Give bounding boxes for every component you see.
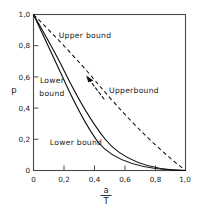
x-axis-tick-labels: 0 0,2 0,4 0,6 0,8 1,0 (31, 175, 191, 184)
plot-canvas: 0 0,2 0,4 0,6 0,8 1,0 0 0,2 0,4 0,6 0,8 … (0, 0, 197, 206)
x-tick-label-4: 0,8 (150, 175, 162, 184)
x-axis-label-denominator: T (102, 196, 109, 206)
x-axis-label: a T (101, 185, 112, 206)
y-tick-label-3: 0,6 (19, 73, 31, 82)
y-tick-label-2: 0,4 (19, 104, 31, 113)
annotation-upper-bound: Upper bound (59, 31, 112, 40)
x-tick-label-5: 1,0 (179, 175, 191, 184)
y-tick-label-5: 1,0 (19, 10, 31, 19)
chart-figure: 0 0,2 0,4 0,6 0,8 1,0 0 0,2 0,4 0,6 0,8 … (0, 0, 197, 206)
y-axis-tick-labels: 0 0,2 0,4 0,6 0,8 1,0 (19, 10, 31, 175)
x-tick-label-3: 0,6 (119, 175, 131, 184)
x-tick-label-2: 0,4 (89, 175, 101, 184)
annotation-lower-bound-bottom: Lower bound (50, 138, 102, 147)
x-tick-label-0: 0 (31, 175, 36, 184)
annotation-lower-bound-line2: bound (39, 89, 64, 98)
y-axis-ticks (34, 15, 39, 171)
y-tick-label-1: 0,2 (19, 135, 30, 144)
annotation-upperbound-right: Upperbound (109, 86, 159, 95)
x-axis-label-numerator: a (103, 185, 108, 195)
y-tick-label-4: 0,8 (19, 41, 31, 50)
x-tick-label-1: 0,2 (58, 175, 69, 184)
annotation-lower-bound-line1: Lower (40, 76, 65, 85)
y-tick-label-0: 0 (25, 166, 30, 175)
y-axis-label: p (11, 85, 16, 95)
